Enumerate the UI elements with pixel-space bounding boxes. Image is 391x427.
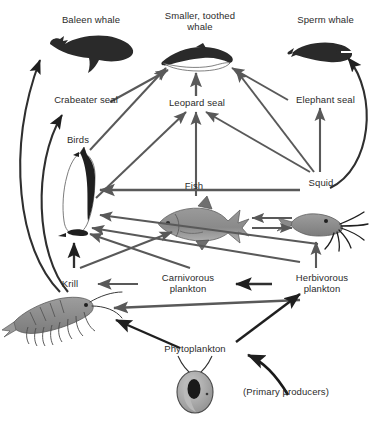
link-squid-to-sperm-whale [330, 58, 367, 188]
node-label-krill: Krill [48, 278, 92, 289]
link-squid-to-leopard-seal [206, 112, 310, 172]
krill-icon [2, 292, 122, 346]
node-label-birds: Birds [50, 134, 106, 145]
sperm-whale-icon [287, 42, 352, 62]
baleen-whale-icon [50, 36, 133, 73]
node-label-elephant-seal: Elephant seal [278, 94, 373, 105]
node-label-phytoplankton: Phytoplankton [148, 343, 242, 354]
phytoplankton-icon [177, 356, 213, 413]
node-label-leopard-seal: Leopard seal [152, 97, 242, 108]
node-label-baleen-whale: Baleen whale [36, 14, 146, 25]
food-web-diagram: Baleen whale Smaller, toothed whale Sper… [0, 0, 391, 427]
node-label-herbivorous-plankton: Herbivorous plankton [278, 272, 366, 294]
link-squid-to-toothed-whale [236, 70, 314, 172]
food-web-canvas [0, 0, 391, 427]
node-label-sperm-whale: Sperm whale [278, 14, 373, 25]
toothed-whale-icon [161, 43, 232, 71]
link-herbivorous-plankton-to-krill [114, 300, 300, 308]
link-carnivorous-plankton-to-birds [90, 234, 190, 268]
node-label-smaller-toothed-whale: Smaller, toothed whale [150, 10, 250, 32]
node-label-carnivorous-plankton: Carnivorous plankton [144, 272, 232, 294]
node-label-fish: Fish [172, 180, 216, 191]
penguin-icon [58, 147, 95, 237]
node-label-squid: Squid [295, 177, 347, 188]
node-label-primary-producers: (Primary producers) [222, 386, 350, 397]
node-label-crabeater-seal: Crabeater seal [36, 94, 136, 105]
link-krill-to-fish [80, 232, 172, 268]
